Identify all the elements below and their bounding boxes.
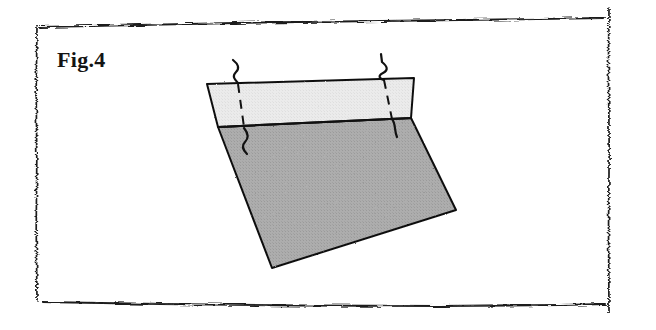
- frame-bottom-rule: [42, 302, 606, 306]
- frame-right-rule: [608, 8, 609, 312]
- wire-right-above-segment: [380, 54, 387, 80]
- layered-block-with-wires: [207, 54, 456, 268]
- lower-dark-layer: [218, 118, 456, 268]
- scanned-page: Fig.4: [0, 0, 656, 330]
- figure-label: Fig.4: [57, 47, 106, 73]
- frame-top-rule: [40, 18, 604, 27]
- frame-left-rule: [36, 26, 37, 301]
- wire-left-above-segment: [233, 60, 238, 83]
